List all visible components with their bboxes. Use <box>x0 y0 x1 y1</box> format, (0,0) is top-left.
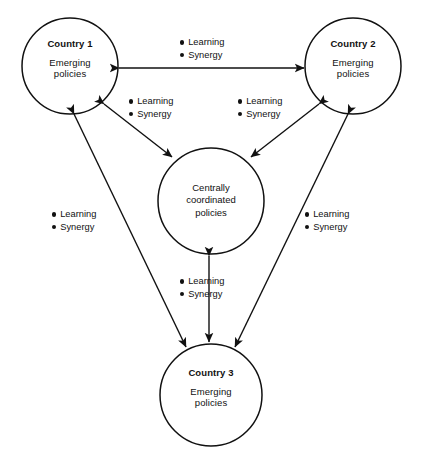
bullet-label: Learning <box>137 95 173 108</box>
bullet-dot-icon <box>180 40 184 44</box>
bullet-item: Synergy <box>180 49 224 62</box>
bullet-label: Synergy <box>313 221 347 234</box>
bullet-item: Learning <box>305 208 349 221</box>
bullet-item: Synergy <box>305 221 349 234</box>
bullet-label: Learning <box>313 208 349 221</box>
bullet-item: Learning <box>238 95 282 108</box>
bullet-dot-icon <box>238 99 242 103</box>
bullet-item: Learning <box>52 208 96 221</box>
bullet-dot-icon <box>180 279 184 283</box>
edge-label-bottom: Learning Synergy <box>180 275 224 301</box>
bullet-item: Synergy <box>129 108 173 121</box>
node-title-country-3: Country 3 <box>160 367 262 379</box>
bullet-item: Learning <box>129 95 173 108</box>
node-subtitle-country-3-line1: Emerging <box>160 386 262 398</box>
node-text-central-line3: policies <box>158 207 264 219</box>
bullet-item: Synergy <box>238 108 282 121</box>
bullet-dot-icon <box>238 112 242 116</box>
node-title-country-1: Country 1 <box>22 38 118 50</box>
bullet-label: Synergy <box>137 108 171 121</box>
node-subtitle-country-1-line2: policies <box>22 68 118 80</box>
bullet-item: Learning <box>180 275 224 288</box>
node-label-country-1: Country 1 Emerging policies <box>22 38 118 80</box>
bullet-label: Synergy <box>188 49 222 62</box>
bullet-label: Synergy <box>246 108 280 121</box>
node-subtitle-country-2-line2: policies <box>305 68 401 80</box>
node-label-country-2: Country 2 Emerging policies <box>305 38 401 80</box>
bullet-label: Synergy <box>60 221 94 234</box>
node-label-central: Centrally coordinated policies <box>158 182 264 219</box>
edge-label-top: Learning Synergy <box>180 36 224 62</box>
bullet-dot-icon <box>305 212 309 216</box>
edge-label-right-center: Learning Synergy <box>238 95 282 121</box>
bullet-label: Learning <box>188 275 224 288</box>
bullet-dot-icon <box>305 225 309 229</box>
bullet-dot-icon <box>129 112 133 116</box>
edge-label-left-lower: Learning Synergy <box>52 208 96 234</box>
bullet-label: Synergy <box>188 288 222 301</box>
bullet-label: Learning <box>188 36 224 49</box>
node-subtitle-country-2-line1: Emerging <box>305 57 401 69</box>
edge-label-left-center: Learning Synergy <box>129 95 173 121</box>
diagram-canvas: Country 1 Emerging policies Country 2 Em… <box>0 0 422 455</box>
bullet-dot-icon <box>180 292 184 296</box>
bullet-dot-icon <box>52 212 56 216</box>
bullet-dot-icon <box>180 53 184 57</box>
bullet-label: Learning <box>246 95 282 108</box>
node-subtitle-country-3-line2: policies <box>160 397 262 409</box>
bullet-dot-icon <box>52 225 56 229</box>
edge-label-right-lower: Learning Synergy <box>305 208 349 234</box>
bullet-item: Learning <box>180 36 224 49</box>
node-subtitle-country-1-line1: Emerging <box>22 57 118 69</box>
node-text-central-line2: coordinated <box>158 194 264 206</box>
node-title-country-2: Country 2 <box>305 38 401 50</box>
bullet-item: Synergy <box>52 221 96 234</box>
node-label-country-3: Country 3 Emerging policies <box>160 367 262 409</box>
bullet-dot-icon <box>129 99 133 103</box>
bullet-label: Learning <box>60 208 96 221</box>
bullet-item: Synergy <box>180 288 224 301</box>
node-text-central-line1: Centrally <box>158 182 264 194</box>
